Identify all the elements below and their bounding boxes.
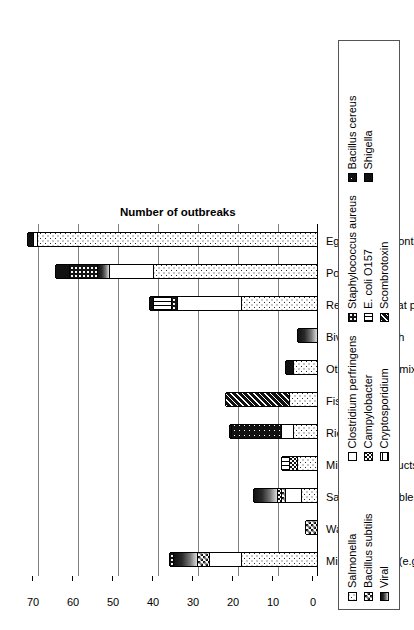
bar-segment (241, 298, 317, 311)
bar-segment (281, 490, 285, 503)
bar[interactable] (226, 393, 318, 408)
chart-page: 010203040506070 Number of outbreaks Misc… (0, 0, 414, 630)
axis-tick (152, 576, 158, 581)
legend-swatch-icon (348, 453, 357, 462)
legend-item[interactable]: Shigella (360, 49, 376, 183)
bar-segment (33, 234, 37, 247)
legend-label: Bacillus subtilis (362, 513, 374, 588)
legend: SalmonellaClostridium perfringensStaphyl… (338, 40, 400, 610)
axis-tick-label: 40 (140, 597, 166, 608)
bar-segment (97, 266, 109, 279)
bar-segment (241, 554, 317, 567)
bar-segment (173, 554, 197, 567)
bar-segment (109, 266, 153, 279)
bar-segment (297, 330, 317, 343)
axis-tick-label: 30 (180, 597, 206, 608)
bar-segment (293, 426, 317, 439)
x-axis-line (317, 224, 318, 576)
bar-segment (229, 426, 231, 439)
bar[interactable] (150, 297, 318, 312)
legend-swatch-icon (364, 174, 373, 183)
legend-item[interactable]: Cryptosporidium (376, 328, 392, 462)
legend-item[interactable]: Salmonella (344, 468, 360, 602)
bar-segment (69, 266, 97, 279)
legend-label: E. coli O157 (362, 249, 374, 309)
bar-segment (27, 234, 33, 247)
plot-area: 010203040506070 (18, 224, 318, 576)
bar-segment (37, 234, 317, 247)
axis-tick-label: 60 (60, 597, 86, 608)
axis-tick (192, 576, 198, 581)
legend-label: Bacillus cereus (346, 96, 358, 170)
bar-segment (171, 298, 177, 311)
bar-segment (289, 394, 317, 407)
bar[interactable] (286, 361, 318, 376)
bar-segment (281, 458, 289, 471)
bar-segment (231, 426, 281, 439)
axis-tick (112, 576, 118, 581)
axis-tick (312, 576, 318, 581)
axis-tick (32, 576, 38, 581)
bar-segment (55, 266, 69, 279)
axis-tick-label: 70 (20, 597, 46, 608)
bar[interactable] (56, 265, 318, 280)
axis-title: Number of outbreaks (120, 206, 236, 218)
axis-tick-label: 0 (300, 597, 326, 608)
bar-segment (169, 554, 173, 567)
legend-item[interactable]: Staphylococcus aureus (344, 189, 360, 323)
bar[interactable] (282, 457, 318, 472)
legend-swatch-icon (380, 313, 389, 322)
legend-swatch-icon (364, 453, 373, 462)
bar-segment (153, 266, 317, 279)
legend-swatch-icon (348, 313, 357, 322)
legend-swatch-icon (348, 592, 357, 601)
bar[interactable] (298, 329, 318, 344)
legend-swatch-icon (348, 174, 357, 183)
legend-item[interactable]: Scombrotoxin (376, 189, 392, 323)
legend-item[interactable]: Campylobacter (360, 328, 376, 462)
bar-segment (285, 362, 293, 375)
legend-swatch-icon (380, 453, 389, 462)
legend-label: Staphylococcus aureus (346, 195, 358, 309)
bar-segment (177, 298, 241, 311)
legend-item[interactable]: Bacillus cereus (344, 49, 360, 183)
rotated-figure: 010203040506070 Number of outbreaks Misc… (0, 0, 414, 630)
bar-segment (293, 362, 317, 375)
bar-segment (153, 298, 171, 311)
bar[interactable] (170, 553, 318, 568)
bar-segment (281, 426, 293, 439)
gridline (38, 224, 39, 576)
bar-segment (285, 490, 301, 503)
bar-segment (289, 458, 297, 471)
bar[interactable] (230, 425, 318, 440)
axis-tick-label: 10 (260, 597, 286, 608)
legend-item[interactable]: Bacillus subtilis (360, 468, 376, 602)
bar-segment (149, 298, 153, 311)
bar-segment (197, 554, 209, 567)
bar-segment (209, 554, 241, 567)
legend-label: Viral (378, 566, 390, 588)
legend-item[interactable]: Clostridium perfringens (344, 328, 360, 462)
legend-label: Scombrotoxin (378, 242, 390, 309)
legend-swatch-icon (364, 313, 373, 322)
legend-label: Shigella (362, 130, 374, 169)
legend-item[interactable]: Viral (376, 468, 392, 602)
axis-tick (232, 576, 238, 581)
axis-tick-label: 20 (220, 597, 246, 608)
bar[interactable] (28, 233, 318, 248)
legend-swatch-icon (364, 592, 373, 601)
legend-item[interactable]: E. coli O157 (360, 189, 376, 323)
bar[interactable] (254, 489, 318, 504)
bar-segment (225, 394, 289, 407)
axis-tick (72, 576, 78, 581)
legend-label: Campylobacter (362, 375, 374, 449)
axis-tick-label: 50 (100, 597, 126, 608)
legend-swatch-icon (380, 592, 389, 601)
legend-label: Clostridium perfringens (346, 335, 358, 448)
legend-grid: SalmonellaClostridium perfringensStaphyl… (344, 49, 392, 601)
bar-segment (277, 490, 281, 503)
legend-label: Cryptosporidium (378, 368, 390, 448)
legend-label: Salmonella (346, 534, 358, 588)
bar-segment (253, 490, 277, 503)
axis-tick (272, 576, 278, 581)
